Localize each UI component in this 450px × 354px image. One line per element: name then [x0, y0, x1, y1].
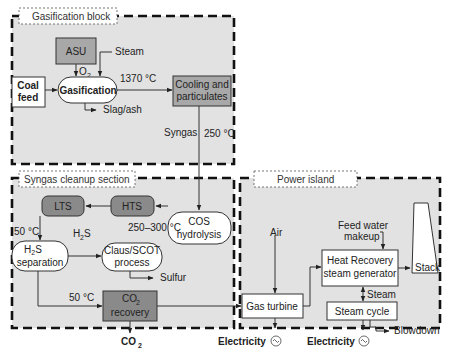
electricity-output-steam-cycle: Electricity — [307, 336, 369, 347]
svg-text:O: O — [79, 66, 87, 77]
h2s-separation-node: H2S separation — [12, 241, 68, 271]
svg-text:CO: CO — [121, 336, 136, 347]
svg-text:ASU: ASU — [66, 46, 87, 57]
lts-node: LTS — [42, 196, 84, 216]
svg-text:LTS: LTS — [54, 201, 72, 212]
svg-text:Heat Recovery: Heat Recovery — [327, 255, 393, 266]
svg-text:feed: feed — [18, 92, 39, 103]
svg-text:Sulfur: Sulfur — [160, 272, 187, 283]
svg-text:Coal: Coal — [17, 80, 39, 91]
svg-text:CO: CO — [122, 293, 137, 304]
svg-text:250–300 °C: 250–300 °C — [128, 222, 181, 233]
svg-text:particulates: particulates — [176, 91, 227, 102]
svg-text:2: 2 — [136, 299, 140, 306]
svg-text:Slag/ash: Slag/ash — [103, 104, 142, 115]
svg-text:Electricity: Electricity — [307, 336, 355, 347]
svg-text:Gasification: Gasification — [59, 85, 116, 96]
svg-text:steam generator: steam generator — [324, 268, 397, 279]
svg-text:Electricity: Electricity — [218, 336, 266, 347]
section-title-cleanup: Syngas cleanup section — [19, 171, 135, 187]
svg-text:50 °C: 50 °C — [14, 226, 39, 237]
svg-text:2: 2 — [138, 342, 142, 349]
svg-text:COS: COS — [188, 216, 210, 227]
svg-text:50 °C: 50 °C — [69, 292, 94, 303]
electricity-output-gas-turbine: Electricity — [218, 336, 281, 347]
svg-text:recovery: recovery — [111, 307, 149, 318]
svg-text:Stack: Stack — [415, 262, 441, 273]
svg-text:separation: separation — [17, 257, 64, 268]
coal-feed-node: Coal feed — [12, 77, 45, 107]
svg-text:Power island: Power island — [277, 174, 334, 185]
svg-text:HTS: HTS — [122, 201, 142, 212]
svg-text:Steam: Steam — [115, 46, 144, 57]
svg-text:250 °C: 250 °C — [204, 128, 235, 139]
steam-cycle-node: Steam cycle — [327, 302, 397, 320]
gas-turbine-node: Gas turbine — [242, 294, 303, 318]
claus-scot-node: Claus/SCOT process — [102, 243, 162, 271]
svg-text:1370 °C: 1370 °C — [120, 73, 156, 84]
cooling-particulates-node: Cooling and particulates — [173, 76, 231, 106]
svg-text:process: process — [114, 257, 149, 268]
gasification-node: Gasification — [58, 77, 117, 103]
section-title-power: Power island — [254, 171, 357, 187]
svg-text:hydrolysis: hydrolysis — [177, 229, 221, 240]
section-title-gasification: Gasification block — [19, 8, 117, 24]
svg-text:S: S — [84, 228, 91, 239]
svg-text:Gas turbine: Gas turbine — [246, 301, 298, 312]
asu-node: ASU — [56, 38, 96, 64]
svg-text:Gasification block: Gasification block — [32, 11, 111, 22]
svg-text:Air: Air — [270, 227, 283, 238]
svg-text:Syngas cleanup section: Syngas cleanup section — [24, 174, 130, 185]
igcc-process-diagram: Gasification block Syngas cleanup sectio… — [0, 0, 450, 354]
svg-text:Syngas: Syngas — [164, 127, 197, 138]
hrsg-node: Heat Recovery steam generator — [322, 250, 398, 286]
co2-recovery-node: CO 2 recovery — [103, 291, 157, 321]
svg-text:Claus/SCOT: Claus/SCOT — [104, 245, 160, 256]
svg-text:Cooling and: Cooling and — [175, 79, 228, 90]
svg-text:Steam cycle: Steam cycle — [335, 306, 390, 317]
hts-node: HTS — [111, 196, 154, 216]
svg-text:makeup: makeup — [344, 231, 380, 242]
svg-text:Feed water: Feed water — [338, 220, 389, 231]
svg-text:Steam: Steam — [367, 289, 396, 300]
svg-text:Blowdown: Blowdown — [394, 325, 440, 336]
